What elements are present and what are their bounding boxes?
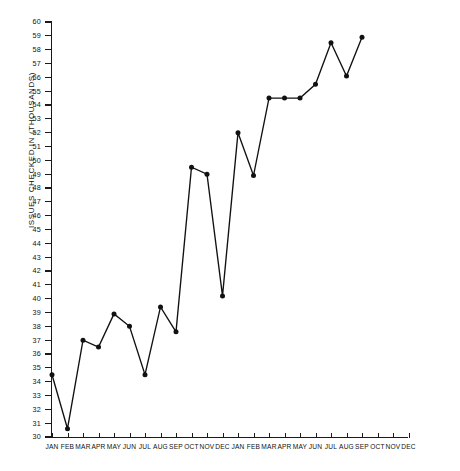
series-points bbox=[50, 35, 365, 431]
data-point-6 bbox=[143, 372, 148, 377]
data-point-11 bbox=[220, 293, 225, 298]
data-point-13 bbox=[251, 173, 256, 178]
data-point-10 bbox=[205, 172, 210, 177]
series-line bbox=[52, 37, 362, 428]
data-point-16 bbox=[298, 96, 303, 101]
line-chart: ISSUES CHECKED IN (THOUSANDS) 6059585756… bbox=[0, 0, 460, 471]
data-point-7 bbox=[158, 304, 163, 309]
data-point-14 bbox=[267, 96, 272, 101]
data-point-3 bbox=[96, 345, 101, 350]
data-point-2 bbox=[81, 338, 86, 343]
data-point-0 bbox=[50, 372, 55, 377]
data-point-15 bbox=[282, 96, 287, 101]
data-point-9 bbox=[189, 165, 194, 170]
data-point-17 bbox=[313, 82, 318, 87]
data-point-4 bbox=[112, 311, 117, 316]
data-point-12 bbox=[236, 130, 241, 135]
data-point-20 bbox=[360, 35, 365, 40]
data-point-18 bbox=[329, 40, 334, 45]
data-point-19 bbox=[344, 73, 349, 78]
data-series bbox=[0, 0, 460, 471]
data-point-1 bbox=[65, 426, 70, 431]
data-point-5 bbox=[127, 324, 132, 329]
data-point-8 bbox=[174, 329, 179, 334]
